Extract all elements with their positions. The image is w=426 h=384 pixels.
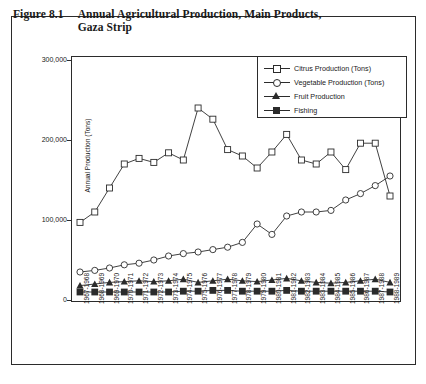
x-tick-label: 1983-1984 [319, 273, 326, 304]
x-tick-label: 1974-1975 [186, 273, 193, 304]
y-tick-mark [67, 140, 71, 141]
x-tick-label: 1985-1986 [349, 273, 356, 304]
x-tick-label: 1969-1970 [113, 273, 120, 304]
y-tick-label: 300,000 [7, 56, 67, 63]
figure-caption: Figure 8.1 Annual Agricultural Productio… [13, 8, 393, 34]
x-tick-label: 1972-1973 [157, 273, 164, 304]
figure-number: Figure 8.1 [13, 8, 64, 34]
x-tick-label: 1970-1971 [127, 273, 134, 304]
chart-legend: Citrus Production (Tons) Vegetable Produ… [257, 56, 407, 118]
y-tick-mark [67, 300, 71, 301]
legend-label-fruit: Fruit Production [290, 92, 345, 101]
x-tick-label: 1979-1980 [260, 273, 267, 304]
y-tick-label: 0 [7, 296, 67, 303]
citrus-marker-icon [264, 62, 290, 74]
y-tick-label: 200,000 [7, 136, 67, 143]
legend-label-fishing: Fishing [290, 106, 317, 115]
x-tick-label: 1977-1978 [231, 273, 238, 304]
x-tick-label: 1980-1981 [275, 273, 282, 304]
x-tick-label: 1982-1983 [304, 273, 311, 304]
series-circle-open [77, 173, 393, 275]
legend-label-vegetable: Vegetable Production (Tons) [290, 78, 384, 87]
x-tick-label: 1984-1985 [334, 273, 341, 304]
series-square-open [77, 105, 393, 225]
y-axis-title: Annual Production (Tons) [84, 96, 91, 216]
legend-label-citrus: Citrus Production (Tons) [290, 64, 371, 73]
legend-item-fruit[interactable]: Fruit Production [264, 89, 406, 103]
x-tick-label: 1967-1968 [83, 273, 90, 304]
legend-item-vegetable[interactable]: Vegetable Production (Tons) [264, 75, 406, 89]
fishing-marker-icon [264, 104, 290, 116]
fruit-marker-icon [264, 90, 290, 102]
y-tick-mark [67, 220, 71, 221]
legend-item-citrus[interactable]: Citrus Production (Tons) [264, 61, 406, 75]
y-tick-mark [67, 60, 71, 61]
x-tick-label: 1981-1982 [290, 273, 297, 304]
y-tick-label: 100,000 [7, 216, 67, 223]
x-tick-label: 1986-1987 [363, 273, 370, 304]
legend-item-fishing[interactable]: Fishing [264, 103, 406, 117]
x-tick-label: 1987-1988 [378, 273, 385, 304]
x-tick-label: 1975-1976 [201, 273, 208, 304]
x-tick-label: 1971-1972 [142, 273, 149, 304]
x-tick-label: 1978-1979 [245, 273, 252, 304]
x-axis-ticks: 1967-19681968-19691969-19701970-19711971… [71, 304, 401, 366]
x-tick-label: 1988-1989 [393, 273, 400, 304]
x-tick-label: 1973-1974 [172, 273, 179, 304]
x-tick-label: 1968-1969 [98, 273, 105, 304]
vegetable-marker-icon [264, 76, 290, 88]
figure-title: Annual Agricultural Production, Main Pro… [78, 8, 350, 34]
x-tick-label: 1976-1977 [216, 273, 223, 304]
